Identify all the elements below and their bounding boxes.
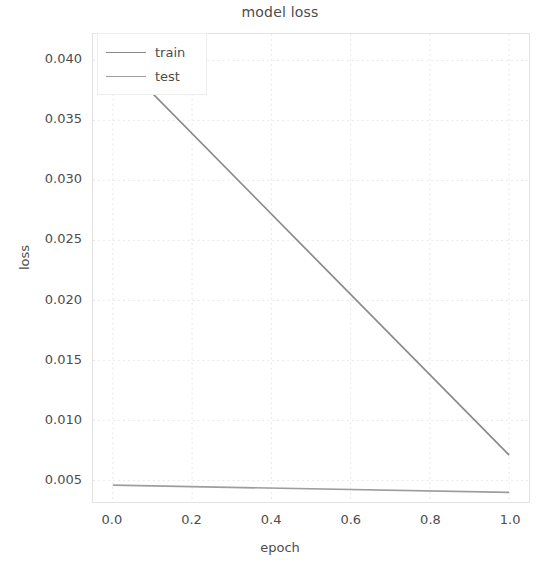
y-axis-label: loss — [17, 228, 32, 288]
x-tick-label: 0.4 — [241, 512, 301, 527]
plot-area — [92, 33, 530, 503]
y-tick-label: 0.010 — [45, 412, 82, 427]
chart-title: model loss — [0, 4, 560, 20]
y-tick-label: 0.015 — [45, 352, 82, 367]
legend-item-train: train — [106, 40, 200, 64]
series-line-test — [113, 485, 509, 492]
series-line-train — [113, 53, 509, 455]
x-tick-label: 0.6 — [321, 512, 381, 527]
data-series-layer — [93, 34, 529, 502]
x-axis-label: epoch — [0, 540, 560, 555]
legend-label-test: test — [155, 70, 180, 83]
y-tick-label: 0.040 — [45, 51, 82, 66]
figure-canvas: model loss 0.0050.0100.0150.0200.0250.03… — [0, 0, 560, 566]
legend-box: train test — [97, 33, 207, 95]
x-tick-label: 0.8 — [400, 512, 460, 527]
x-tick-label: 1.0 — [480, 512, 540, 527]
legend-label-train: train — [155, 46, 185, 59]
legend-swatch-test — [106, 76, 146, 77]
x-tick-label: 0.2 — [162, 512, 222, 527]
y-tick-label: 0.035 — [45, 111, 82, 126]
x-tick-label: 0.0 — [82, 512, 142, 527]
y-tick-label: 0.005 — [45, 472, 82, 487]
legend-swatch-train — [106, 52, 146, 53]
legend-item-test: test — [106, 64, 200, 88]
y-tick-label: 0.025 — [45, 231, 82, 246]
y-tick-label: 0.020 — [45, 292, 82, 307]
y-tick-label: 0.030 — [45, 171, 82, 186]
